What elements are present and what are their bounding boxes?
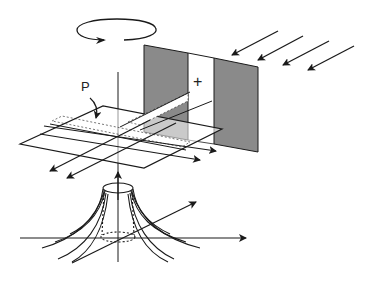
field-lines <box>42 183 200 262</box>
diagram-canvas: P + <box>0 0 376 281</box>
diagram-svg <box>0 0 376 281</box>
rotation-arrow-icon <box>77 19 156 44</box>
incident-arrows <box>232 31 354 70</box>
horizontal-plane-p <box>20 92 222 168</box>
plane-label-p: P <box>81 80 90 93</box>
charge-plus-symbol: + <box>193 74 202 90</box>
